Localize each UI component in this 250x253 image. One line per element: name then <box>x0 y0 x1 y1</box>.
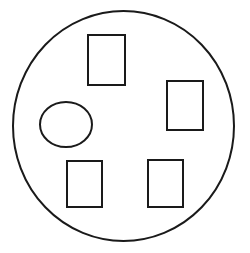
rectangle-bottom-right <box>148 160 183 207</box>
rectangle-top <box>88 35 125 85</box>
rectangle-right <box>167 81 203 130</box>
rectangle-bottom-left <box>67 161 102 207</box>
shape-diagram <box>0 0 250 253</box>
figure-canvas <box>0 0 250 253</box>
ellipse-left <box>40 102 92 147</box>
